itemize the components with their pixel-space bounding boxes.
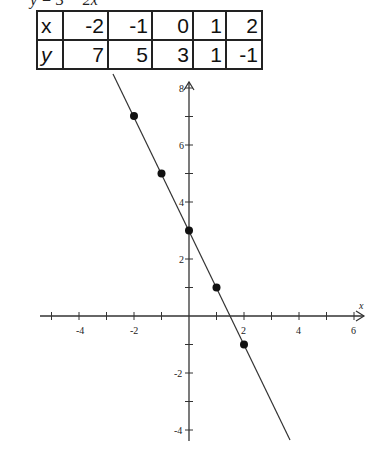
y-tick-label: 2 xyxy=(179,254,184,265)
table-cell: 5 xyxy=(108,40,152,69)
table-cell: 0 xyxy=(152,11,193,40)
table-cell: 2 xyxy=(226,11,262,40)
graph-line xyxy=(113,74,290,440)
equation-label: y = 3 − 2x xyxy=(30,0,98,9)
data-point xyxy=(158,170,166,178)
table-cell: 7 xyxy=(63,40,108,69)
y-tick-label: 4 xyxy=(179,197,184,208)
y-tick-label: -4 xyxy=(174,425,182,436)
x-axis-label: x xyxy=(358,300,364,311)
table-cell: -1 xyxy=(226,40,262,69)
x-tick-label: -4 xyxy=(76,325,84,336)
table-cell: 3 xyxy=(152,40,193,69)
y-tick-label: 8 xyxy=(179,83,184,94)
x-tick-label: 4 xyxy=(296,325,301,336)
y-tick-label: -2 xyxy=(174,368,182,379)
table-row-y: y 7 5 3 1 -1 xyxy=(37,40,262,69)
table-cell: -2 xyxy=(63,11,108,40)
data-point xyxy=(185,227,193,235)
x-tick-label: 2 xyxy=(241,325,246,336)
table-cell: 1 xyxy=(193,40,226,69)
table-header-x: x xyxy=(37,11,63,40)
data-point xyxy=(240,341,248,349)
values-table: x -2 -1 0 1 2 y 7 5 3 1 -1 xyxy=(36,10,263,70)
table-row-x: x -2 -1 0 1 2 xyxy=(37,11,262,40)
x-tick-label: -2 xyxy=(130,325,138,336)
table-cell: -1 xyxy=(108,11,152,40)
y-tick-label: 6 xyxy=(179,140,184,151)
table-cell: 1 xyxy=(193,11,226,40)
x-tick-label: 6 xyxy=(351,325,356,336)
data-point xyxy=(130,112,138,120)
table-header-y: y xyxy=(37,40,63,69)
data-point xyxy=(213,284,221,292)
